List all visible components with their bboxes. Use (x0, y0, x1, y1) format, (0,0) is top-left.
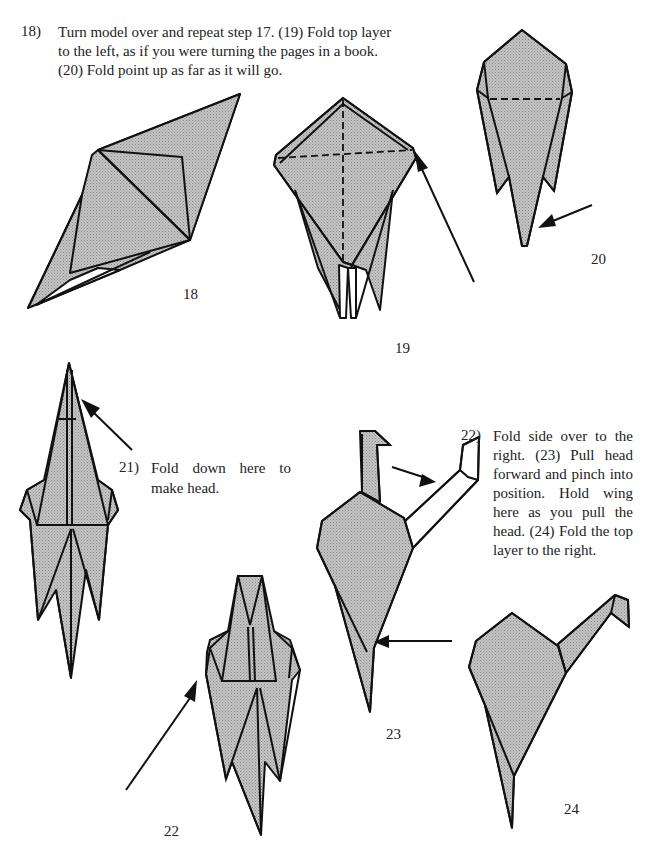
step-21-line-1: Fold down here to (151, 459, 291, 479)
step-18-number: 18) (21, 23, 41, 40)
diagram-label-20: 20 (591, 251, 606, 268)
step-18-line-2: to the left, as if you were turning the … (58, 42, 378, 60)
step-22-line-5: here as you pull the (493, 503, 633, 523)
diagram-label-23: 23 (386, 726, 401, 743)
diagram-18 (28, 94, 240, 308)
step-22-line-7: layer to the right. (493, 541, 596, 559)
step-21-number: 21) (119, 459, 139, 476)
step-22-line-3: forward and pinch into (493, 465, 633, 485)
step-21-line-2: make head. (151, 479, 219, 497)
step-18-line-1: Turn model over and repeat step 17. (19)… (58, 23, 391, 41)
step-22-line-2: right. (23) Pull head (493, 446, 633, 466)
diagram-label-19: 19 (395, 340, 410, 357)
diagram-19 (274, 98, 474, 318)
step-22-number: 22) (461, 427, 481, 444)
diagram-22 (126, 576, 300, 835)
step-22-line-4: position. Hold wing (493, 484, 633, 504)
diagram-label-18: 18 (183, 286, 198, 303)
diagram-label-22: 22 (164, 823, 179, 840)
diagram-21 (20, 363, 132, 678)
diagram-label-24: 24 (564, 801, 579, 818)
diagram-20 (477, 30, 592, 246)
step-22-line-1: Fold side over to the (493, 427, 633, 447)
diagram-23 (317, 431, 479, 712)
step-18-line-3: (20) Fold point up as far as it will go. (58, 61, 282, 79)
step-22-line-6: head. (24) Fold the top (493, 522, 633, 542)
origami-diagrams (0, 0, 648, 849)
diagram-24 (469, 595, 629, 828)
